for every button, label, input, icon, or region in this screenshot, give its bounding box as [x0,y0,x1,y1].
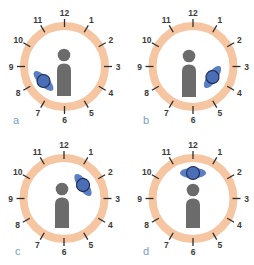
hour-label: 6 [191,247,196,257]
hour-label: 3 [116,62,121,72]
panel-label-a: a [13,115,19,126]
hour-label: 3 [244,62,249,72]
listener-person-icon [55,183,69,228]
hour-label: 6 [62,247,67,257]
hour-label: 2 [237,35,242,45]
hour-label: 11 [33,15,42,25]
hour-label: 11 [162,15,171,25]
listener-person-icon [57,49,71,96]
hour-label: 11 [162,147,171,157]
panel-a: 121234567891011 a [0,0,127,132]
hour-label: 10 [142,35,152,45]
hour-label: 5 [217,240,222,250]
hour-label: 1 [89,15,94,25]
hour-label: 9 [8,194,13,204]
hour-label: 6 [62,115,67,125]
hour-label: 1 [217,15,222,25]
hour-label: 7 [35,240,40,250]
hour-label: 10 [13,35,23,45]
hour-label: 4 [108,88,113,98]
hour-label: 12 [59,140,69,150]
hour-label: 10 [142,167,152,177]
hour-label: 2 [237,167,242,177]
hour-label: 7 [164,108,169,118]
hour-label: 4 [108,220,113,230]
hour-label: 5 [217,108,222,118]
hour-label: 5 [88,240,93,250]
hour-label: 8 [15,220,20,230]
hour-label: 9 [137,62,142,72]
panel-label-b: b [143,115,149,126]
hour-label: 3 [244,194,249,204]
hour-label: 6 [191,115,196,125]
listener-person-icon [182,50,196,97]
hour-label: 2 [108,167,113,177]
hour-label: 8 [144,220,149,230]
hour-label: 10 [13,167,23,177]
listener-person-icon [186,184,200,228]
sound-source-icon [200,63,226,92]
hour-label: 9 [137,194,142,204]
hour-label: 4 [237,88,242,98]
hour-label: 7 [35,108,40,118]
sound-source-icon [180,167,206,180]
clock-face: 121234567891011 [137,140,249,257]
clock-diagram: 121234567891011 [0,0,127,132]
panel-c: 121234567891011 c [0,132,127,264]
panel-d: 121234567891011 d [127,132,254,264]
hour-label: 12 [60,8,70,18]
hour-label: 7 [164,240,169,250]
panel-label-c: c [15,246,21,257]
hour-label: 3 [115,194,120,204]
panel-label-d: d [143,246,149,257]
hour-label: 11 [33,147,42,157]
hour-label: 9 [9,62,14,72]
hour-label: 12 [188,140,198,150]
hour-label: 8 [16,88,21,98]
hour-label: 8 [144,88,149,98]
clock-diagram: 121234567891011 [127,0,254,132]
hour-label: 4 [237,220,242,230]
hour-label: 12 [188,8,198,18]
hour-label: 1 [217,147,222,157]
hour-label: 5 [89,108,94,118]
hour-label: 1 [88,147,93,157]
hour-label: 2 [108,35,113,45]
panel-b: 121234567891011 b [127,0,254,132]
